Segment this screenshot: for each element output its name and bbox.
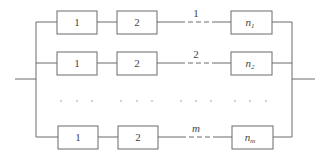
row-2: 1 2 2 n2	[36, 48, 292, 75]
ellipsis-dots	[60, 100, 267, 102]
block-label: 2	[135, 131, 141, 143]
block-label: 1	[74, 57, 80, 69]
block-label: 2	[134, 16, 140, 28]
block-label: 2	[134, 57, 140, 69]
chain-label: 1	[193, 7, 199, 19]
chain-label: m	[192, 122, 200, 134]
parallel-series-diagram: 1 2 1 n1 1 2 2 n2	[0, 0, 321, 157]
block-label: 1	[74, 16, 80, 28]
row-m: 1 2 m nm	[36, 122, 292, 149]
block-label: 1	[75, 131, 81, 143]
chain-label: 2	[193, 48, 199, 60]
row-1: 1 2 1 n1	[36, 7, 292, 34]
